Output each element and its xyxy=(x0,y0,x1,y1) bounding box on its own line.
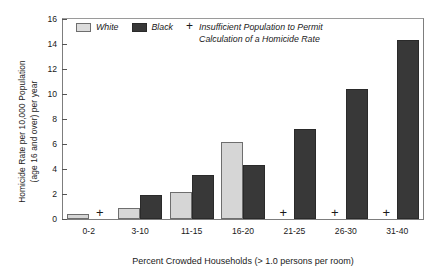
legend-swatch-white-icon xyxy=(76,23,91,32)
legend-item-white: White xyxy=(76,22,119,33)
legend-item-black: Black xyxy=(132,22,174,33)
homicide-rate-bar-chart: Homicide Rate per 10,000 Population (age… xyxy=(0,0,431,271)
bar-black-11-15 xyxy=(192,175,214,219)
bar-group xyxy=(217,19,268,219)
legend-label-black: Black xyxy=(152,22,174,33)
insufficient-data-plus-icon: + xyxy=(324,206,346,219)
bar-white-11-15 xyxy=(170,192,192,220)
bar-group: + xyxy=(320,19,371,219)
y-axis-tick-label: 6 xyxy=(30,140,57,149)
bar-group: + xyxy=(372,19,423,219)
bar-group: + xyxy=(269,19,320,219)
x-axis-title: Percent Crowded Households (> 1.0 person… xyxy=(62,256,424,267)
bar-black-21-25 xyxy=(294,129,316,219)
x-axis-tick-label: 26-30 xyxy=(320,226,371,236)
bar-group xyxy=(166,19,217,219)
bar-black-16-20 xyxy=(243,165,265,219)
x-axis-tick-label: 16-20 xyxy=(217,226,268,236)
legend-label-white: White xyxy=(96,22,119,33)
legend-swatch-black-icon xyxy=(132,23,147,32)
y-axis-tick-label: 12 xyxy=(30,65,57,74)
x-axis-tick-label: 21-25 xyxy=(269,226,320,236)
x-axis-tick-label: 3-10 xyxy=(114,226,165,236)
bar-black-26-30 xyxy=(346,89,368,219)
plus-marker-icon: + xyxy=(186,21,193,32)
y-axis-tick-label: 14 xyxy=(30,40,57,49)
insufficient-data-plus-icon: + xyxy=(272,206,294,219)
bars-layer: ++++ xyxy=(63,19,423,219)
y-axis-tick-label: 2 xyxy=(30,190,57,199)
bar-white-0-2 xyxy=(67,214,89,219)
bar-black-31-40 xyxy=(397,40,419,219)
legend-item-insufficient-data: + Insufficient Population to Permit Calc… xyxy=(186,22,323,45)
legend-note-line1: Insufficient Population to Permit xyxy=(199,22,323,34)
y-axis-title-line1: Homicide Rate per 10,000 Population xyxy=(17,7,29,257)
x-axis-tick-label: 11-15 xyxy=(166,226,217,236)
insufficient-data-plus-icon: + xyxy=(375,206,397,219)
legend-note-line2: Calculation of a Homicide Rate xyxy=(199,34,323,46)
insufficient-data-plus-icon: + xyxy=(89,206,111,219)
chart-legend: White Black + Insufficient Population to… xyxy=(76,22,336,45)
bar-white-3-10 xyxy=(118,208,140,219)
y-axis-tick-label: 8 xyxy=(30,115,57,124)
y-axis-tick-label: 16 xyxy=(30,15,57,24)
bar-white-16-20 xyxy=(221,142,243,220)
y-axis-tick-mark xyxy=(62,219,67,220)
y-axis-tick-label: 4 xyxy=(30,165,57,174)
x-axis-tick-label: 0-2 xyxy=(63,226,114,236)
y-axis-tick-label: 0 xyxy=(30,215,57,224)
x-axis-tick-label: 31-40 xyxy=(372,226,423,236)
bar-group: + xyxy=(63,19,114,219)
y-axis-tick-label: 10 xyxy=(30,90,57,99)
legend-note-insufficient-population: Insufficient Population to Permit Calcul… xyxy=(199,22,323,45)
bar-black-3-10 xyxy=(140,195,162,219)
bar-group xyxy=(114,19,165,219)
